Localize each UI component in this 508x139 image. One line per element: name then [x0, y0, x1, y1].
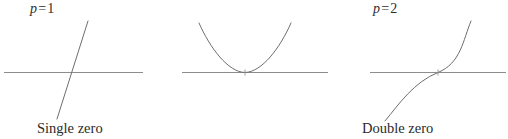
panel-single-zero: p=1 Single zero — [0, 0, 170, 139]
param-equals-single: = — [37, 1, 47, 16]
panel-triple-zero: p=3 Triple zero — [340, 0, 508, 139]
caption-single-zero: Single zero — [37, 118, 103, 138]
param-label-single: p=1 — [30, 0, 55, 19]
param-value-single: 1 — [47, 1, 54, 16]
panel-double-zero: p=2 Double zero — [170, 0, 340, 139]
zero-multiplicity-figure: p=1 Single zero p=2 Double zero p=3 Trip… — [0, 0, 508, 139]
